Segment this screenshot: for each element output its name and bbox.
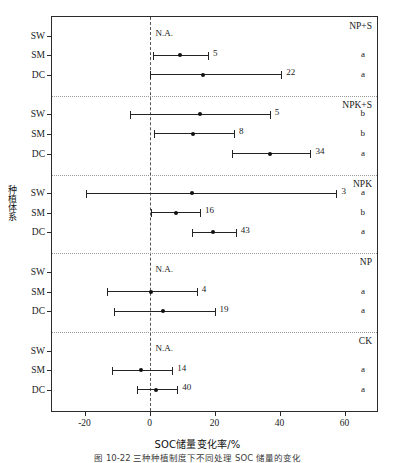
data-point-marker — [198, 112, 202, 116]
not-available-label: N.A. — [156, 28, 174, 39]
y-axis-label-dc: DC — [32, 384, 45, 396]
y-axis-label-dc: DC — [32, 226, 45, 238]
error-bar-cap-high — [234, 130, 235, 138]
error-bar-cap-high — [172, 367, 173, 375]
error-bar-cap-low — [137, 386, 138, 394]
x-axis-tick-label: 40 — [275, 417, 285, 429]
error-bar-cap-low — [130, 111, 131, 119]
group-label-np-s: NP+S — [349, 21, 372, 32]
y-axis-label-sm: SM — [31, 207, 45, 219]
y-axis-label-dc: DC — [32, 305, 45, 317]
y-axis-tick — [47, 351, 52, 352]
y-axis-label-sw: SW — [31, 266, 45, 278]
chart-plot-area: NP+SSWN.A.SM5aDC22aNPK+SSW5bSM8bDC34aNPK… — [51, 16, 378, 412]
y-axis-tick — [47, 213, 52, 214]
error-bar-cap-low — [151, 209, 152, 217]
data-point-marker — [154, 388, 158, 392]
significance-letter: a — [361, 305, 365, 316]
significance-letter: b — [361, 108, 366, 119]
y-axis-tick — [47, 154, 52, 155]
data-point-marker — [139, 368, 143, 372]
y-axis-tick — [47, 292, 52, 293]
error-bar-cap-low — [153, 52, 154, 60]
y-axis-label-sw: SW — [31, 187, 45, 199]
significance-letter: a — [361, 148, 365, 159]
data-point-marker — [268, 152, 272, 156]
x-axis-tick-label: 0 — [147, 417, 152, 429]
y-axis-tick — [47, 55, 52, 56]
x-axis-tick — [150, 411, 151, 416]
x-axis-tick — [215, 411, 216, 416]
error-bar-cap-low — [192, 229, 193, 237]
data-value-label: 34 — [315, 146, 324, 157]
data-point-marker — [178, 53, 182, 57]
x-axis-tick — [85, 411, 86, 416]
error-bar-line — [86, 193, 336, 194]
group-separator — [52, 253, 377, 254]
data-value-label: 22 — [286, 67, 295, 78]
y-axis-tick — [47, 114, 52, 115]
error-bar-cap-high — [208, 52, 209, 60]
x-axis-tick — [280, 411, 281, 416]
significance-letter: a — [361, 226, 365, 237]
error-bar-cap-low — [107, 288, 108, 296]
data-value-label: 5 — [213, 48, 218, 59]
error-bar-cap-high — [336, 190, 337, 198]
data-value-label: 5 — [275, 107, 280, 118]
error-bar-cap-high — [281, 71, 282, 79]
y-axis-tick — [47, 75, 52, 76]
y-axis-label-dc: DC — [32, 148, 45, 160]
not-available-label: N.A. — [156, 264, 174, 275]
significance-letter: a — [361, 286, 365, 297]
error-bar-cap-high — [236, 229, 237, 237]
not-available-label: N.A. — [156, 343, 174, 354]
y-axis-tick — [47, 272, 52, 273]
group-label-npk-s: NPK+S — [342, 100, 372, 111]
data-point-marker — [161, 309, 165, 313]
error-bar-cap-high — [197, 288, 198, 296]
significance-letter: a — [361, 69, 365, 80]
y-axis-label-sw: SW — [31, 345, 45, 357]
y-axis-label-sw: SW — [31, 108, 45, 120]
group-label-ck: CK — [359, 336, 372, 347]
error-bar-cap-low — [154, 130, 155, 138]
y-axis-tick — [47, 36, 52, 37]
y-axis-label-sm: SM — [31, 286, 45, 298]
data-value-label: 3 — [341, 186, 346, 197]
data-value-label: 8 — [239, 126, 244, 137]
significance-letter: b — [361, 128, 366, 139]
data-value-label: 19 — [220, 304, 229, 315]
data-value-label: 4 — [202, 284, 207, 295]
error-bar-cap-low — [150, 71, 151, 79]
significance-letter: a — [361, 364, 365, 375]
group-separator — [52, 96, 377, 97]
error-bar-cap-high — [215, 308, 216, 316]
data-point-marker — [149, 290, 153, 294]
group-separator — [52, 332, 377, 333]
y-axis-tick — [47, 370, 52, 371]
y-axis-tick — [47, 232, 52, 233]
significance-letter: a — [361, 384, 365, 395]
x-axis-tick-label: 60 — [340, 417, 350, 429]
y-axis-tick — [47, 311, 52, 312]
error-bar-cap-high — [270, 111, 271, 119]
significance-letter: a — [361, 49, 365, 60]
y-axis-label-sm: SM — [31, 49, 45, 61]
x-axis-tick-label: 20 — [210, 417, 220, 429]
data-value-label: 40 — [182, 382, 191, 393]
y-axis-label-dc: DC — [32, 69, 45, 81]
error-bar-cap-low — [114, 308, 115, 316]
data-point-marker — [174, 211, 178, 215]
data-value-label: 14 — [177, 363, 186, 374]
error-bar-cap-high — [200, 209, 201, 217]
error-bar-line — [150, 74, 282, 75]
group-label-np: NP — [360, 257, 372, 268]
data-point-marker — [190, 191, 194, 195]
data-value-label: 43 — [241, 225, 250, 236]
y-axis-title: 种植体系 — [3, 185, 17, 221]
x-axis-title: SOC储量变化率/% — [0, 436, 395, 451]
x-axis-tick-label: -20 — [78, 417, 91, 429]
error-bar-cap-low — [86, 190, 87, 198]
significance-letter: b — [361, 207, 366, 218]
